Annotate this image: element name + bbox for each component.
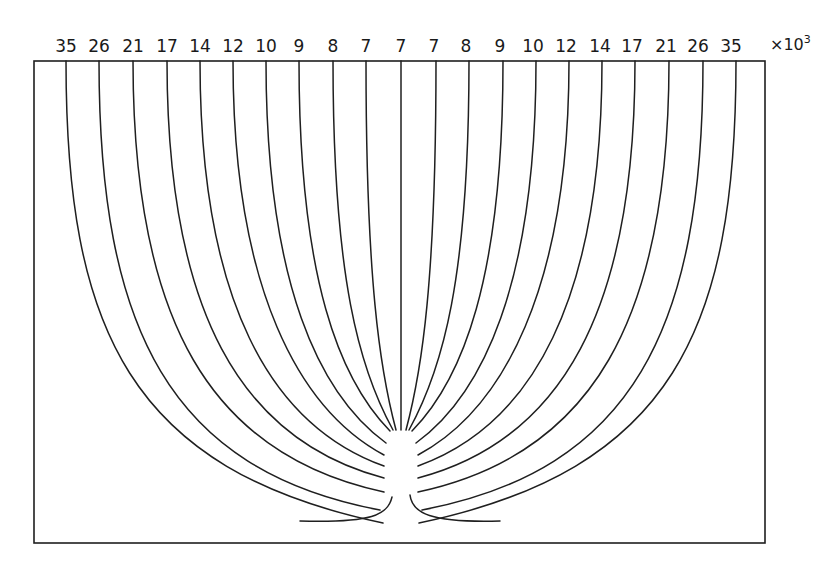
field-line-left-5 (200, 61, 384, 466)
contour-label: 7 (396, 36, 407, 56)
source-hook-right (410, 495, 500, 521)
field-line-right-5 (418, 61, 602, 466)
contour-label: 10 (522, 36, 544, 56)
field-line-left-7 (266, 61, 386, 443)
field-line-right-7 (416, 61, 536, 443)
field-line-right-6 (418, 61, 569, 455)
contour-label: 7 (361, 36, 372, 56)
contour-label: 26 (687, 36, 709, 56)
diagram-frame (34, 61, 765, 543)
contour-label: 9 (495, 36, 506, 56)
contour-label: 35 (720, 36, 742, 56)
contour-label: 8 (328, 36, 339, 56)
contour-label: 35 (55, 36, 77, 56)
contour-label: 14 (589, 36, 611, 56)
field-line-left-4 (167, 61, 384, 478)
multiplier-base: ×10 (770, 35, 804, 54)
field-line-left-8 (299, 61, 390, 431)
contour-label: 17 (156, 36, 178, 56)
contour-label: 21 (655, 36, 677, 56)
field-line-left-6 (233, 61, 384, 455)
contour-label: 8 (461, 36, 472, 56)
potential-field-diagram: 35262117141210987778910121417212635 ×103 (0, 0, 837, 566)
contour-label: 14 (189, 36, 211, 56)
field-line-right-1 (419, 61, 736, 523)
multiplier-exponent: 3 (804, 33, 811, 46)
contour-label: 26 (88, 36, 110, 56)
contour-label: 10 (255, 36, 277, 56)
field-line-left-10 (366, 61, 396, 430)
field-line-right-10 (406, 61, 436, 430)
field-line-right-8 (412, 61, 503, 431)
contour-value-labels: 35262117141210987778910121417212635 (55, 36, 742, 56)
contour-label: 12 (222, 36, 244, 56)
contour-label: 12 (555, 36, 577, 56)
field-lines (66, 61, 736, 523)
contour-label: 21 (122, 36, 144, 56)
contour-label: 7 (429, 36, 440, 56)
multiplier-label: ×103 (770, 33, 811, 54)
field-line-left-1 (66, 61, 383, 523)
contour-label: 9 (294, 36, 305, 56)
contour-label: 17 (621, 36, 643, 56)
field-line-right-4 (418, 61, 635, 478)
